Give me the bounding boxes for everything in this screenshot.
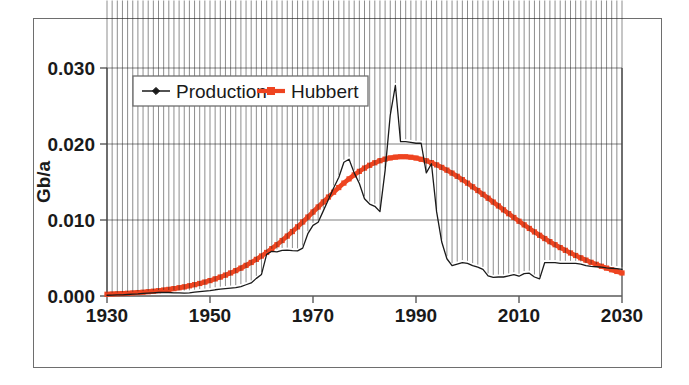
legend: ProductionHubbert [133,76,368,106]
x-tick-label-3: 1990 [395,305,437,326]
y-tick-labels: 0.0000.0100.0200.030 [47,58,95,307]
datapoint-marker [413,155,418,160]
datapoint-marker [403,154,408,159]
x-tick-label-2: 1970 [292,305,334,326]
datapoint-marker [346,176,351,181]
legend-label-hubbert: Hubbert [291,81,359,102]
legend-label-production: Production [176,81,267,102]
series-production [107,1,622,296]
y-tick-label-2: 0.020 [47,134,95,155]
x-tick-labels: 193019501970199020102030 [86,305,643,326]
datapoint-marker [408,155,413,160]
x-tick-label-0: 1930 [86,305,128,326]
chart-canvas: 193019501970199020102030 0.0000.0100.020… [0,0,689,385]
datapoint-marker [388,155,393,160]
datapoint-marker [393,155,398,160]
x-tick-label-5: 2030 [601,305,643,326]
x-tick-label-4: 2010 [498,305,540,326]
y-axis-title: Gb/a [33,160,54,203]
y-axis-title-group: Gb/a [33,160,54,203]
legend-marker-hubbert [267,87,275,95]
datapoint-marker [614,269,619,274]
chart-figure: 193019501970199020102030 0.0000.0100.020… [0,0,689,385]
y-tick-label-0: 0.000 [47,286,95,307]
y-tick-label-3: 0.030 [47,58,95,79]
datapoint-marker [336,185,341,190]
datapoint-marker [398,154,403,159]
datapoint-marker [619,270,624,275]
y-tick-label-1: 0.010 [47,210,95,231]
datapoint-marker [341,180,346,185]
x-tick-label-1: 1950 [189,305,231,326]
